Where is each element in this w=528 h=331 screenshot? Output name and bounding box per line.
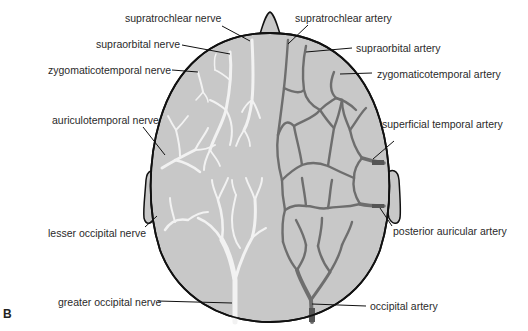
label-supratrochlear-nerve: supratrochlear nerve [125,12,221,24]
superficial-temporal-origin [372,160,384,165]
label-superficial-temporal-artery: superficial temporal artery [382,118,503,130]
label-greater-occipital-nerve: greater occipital nerve [58,296,161,308]
label-zygomaticotemporal-artery: zygomaticotemporal artery [377,68,501,80]
label-supraorbital-nerve: supraorbital nerve [96,38,180,50]
label-supraorbital-artery: supraorbital artery [356,42,441,54]
panel-letter: B [3,307,12,321]
label-lesser-occipital-nerve: lesser occipital nerve [48,227,146,239]
nose [260,12,280,34]
label-posterior-auricular-artery: posterior auricular artery [393,225,507,237]
label-auriculotemporal-nerve: auriculotemporal nerve [52,114,159,126]
label-zygomaticotemporal-nerve: zygomaticotemporal nerve [48,64,171,76]
posterior-auricular-origin [372,204,384,208]
label-supratrochlear-artery: supratrochlear artery [295,12,392,24]
scalp-innervation-diagram: supratrochlear nerve supraorbital nerve … [0,0,528,331]
scalp-illustration [0,0,528,331]
label-occipital-artery: occipital artery [370,300,438,312]
